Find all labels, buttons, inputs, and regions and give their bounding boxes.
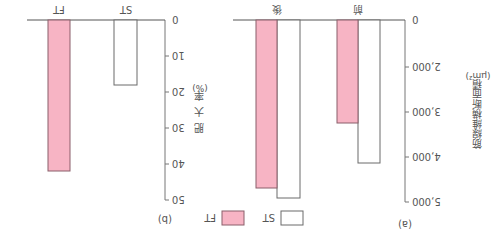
legend-label-ST: ST (262, 212, 275, 223)
panel-a-tick-label: 4,000 (412, 151, 441, 162)
bar-a-after-FT (256, 20, 277, 188)
panel-b-tick-label: 0 (172, 14, 178, 25)
panel-b-tick-label: 40 (172, 158, 185, 169)
panel-a-y-label: 筋線維横断面積 (473, 78, 484, 150)
panel-b-category-label: ST (119, 4, 132, 15)
panel-b-y-unit: (%) (192, 83, 208, 93)
panel-a-tick-label: 5,000 (412, 196, 441, 207)
panel-a-ticks: 0 2,000 3,000 4,000 5,000 (405, 14, 441, 207)
panel-a-tick-label: 2,000 (412, 61, 441, 72)
panel-a-y-unit: (μm²) (465, 71, 490, 81)
bar-a-before-FT (337, 20, 358, 123)
panel-b-ticks: 0 10 20 30 40 50 (165, 14, 185, 205)
panel-b-label: (b) (158, 214, 172, 225)
legend-label-FT: FT (203, 212, 216, 223)
panel-a-label: (a) (398, 219, 412, 230)
panel-a-category-label: 前 (353, 4, 363, 16)
panel-a: 0 2,000 3,000 4,000 5,000 筋線維横断面積 (μm²) … (233, 4, 491, 230)
bar-a-before-ST (358, 20, 380, 163)
panel-b: 0 10 20 30 40 50 肥大率 (%) ST FT (b) (27, 4, 208, 225)
panel-a-tick-label: 3,000 (412, 106, 441, 117)
legend-swatch-ST (281, 211, 303, 225)
panel-a-category-label: 後 (272, 4, 282, 16)
panel-b-tick-label: 10 (172, 50, 185, 61)
legend: ST FT (203, 211, 303, 225)
bar-b-ST (114, 20, 137, 85)
panel-b-tick-label: 50 (172, 194, 185, 205)
bar-b-FT (48, 20, 70, 171)
legend-swatch-FT (222, 211, 244, 225)
panel-b-tick-label: 30 (172, 122, 185, 133)
bar-a-after-ST (277, 20, 300, 198)
figure: 0 2,000 3,000 4,000 5,000 筋線維横断面積 (μm²) … (0, 0, 500, 241)
panel-a-tick-label: 0 (412, 14, 418, 25)
panel-b-tick-label: 20 (172, 86, 185, 97)
panel-b-category-label: FT (52, 4, 65, 15)
